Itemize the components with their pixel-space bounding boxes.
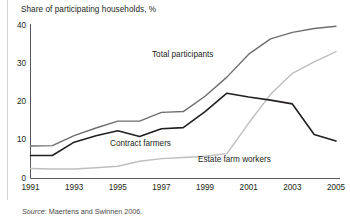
- source-note: Source: Maertens and Swinnen 2006.: [22, 207, 142, 216]
- y-axis-tick-label: 20: [10, 97, 26, 106]
- y-axis-tick-label: 40: [10, 21, 26, 30]
- plot-area: 0 10 20 30 40 1991 1993 1995 1997 1999 2…: [0, 0, 344, 200]
- x-axis-tick-label: 2001: [234, 183, 264, 192]
- line-chart-svg: [0, 0, 344, 200]
- y-axis-tick-label: 0: [10, 174, 26, 183]
- x-axis-tick-label: 1991: [16, 183, 46, 192]
- series-line-contract-farmers: [31, 93, 337, 155]
- x-axis-tick-label: 1993: [59, 183, 89, 192]
- x-axis-tick-label: 1995: [103, 183, 133, 192]
- y-axis-tick-label: 10: [10, 135, 26, 144]
- x-axis-tick-label: 1999: [190, 183, 220, 192]
- series-annotation-estate-farm-workers: Estate farm workers: [198, 155, 271, 164]
- x-axis-tick-label: 1997: [146, 183, 176, 192]
- series-line-estate-farm-workers: [31, 52, 337, 169]
- y-axis-tick-label: 30: [10, 59, 26, 68]
- x-axis-tick-label: 2005: [321, 183, 350, 192]
- x-axis-tick-label: 2003: [277, 183, 307, 192]
- source-label: Source: [22, 207, 45, 216]
- series-annotation-total-participants: Total participants: [152, 50, 213, 59]
- source-text: Maertens and Swinnen 2006.: [49, 207, 143, 216]
- series-annotation-contract-farmers: Contract farmers: [110, 139, 171, 148]
